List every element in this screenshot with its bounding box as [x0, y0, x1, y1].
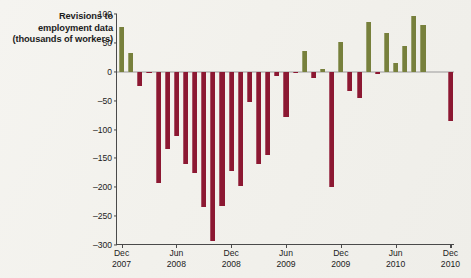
x-tick-label: Jun2008	[167, 248, 186, 270]
x-tick-label: Dec2010	[441, 248, 460, 270]
bar	[274, 72, 279, 77]
x-tick-month: Jun	[386, 248, 405, 259]
bar-highlight	[210, 72, 211, 241]
bar-highlight	[146, 72, 147, 73]
y-tick-label: –250	[93, 211, 112, 221]
x-tick-month: Jun	[167, 248, 186, 259]
y-tick-label: –50	[98, 96, 112, 106]
bar-highlight	[156, 72, 157, 183]
bar	[201, 72, 206, 208]
bar	[128, 53, 133, 71]
bar-highlight	[293, 72, 294, 73]
bar-highlight	[420, 25, 421, 72]
bar-highlight	[393, 63, 394, 72]
bar-highlight	[119, 27, 120, 72]
bar	[320, 69, 325, 71]
x-tick-label: Jun2010	[386, 248, 405, 270]
bar-highlight	[265, 72, 266, 155]
x-tick-month: Dec	[222, 248, 241, 259]
x-tick-year: 2010	[441, 259, 460, 270]
bar	[238, 72, 243, 186]
y-tick-mark	[114, 129, 118, 130]
bar	[247, 72, 252, 102]
x-tick-month: Dec	[331, 248, 350, 259]
bar	[183, 72, 188, 164]
x-tick-mark	[231, 244, 232, 248]
y-tick-label: 100	[98, 9, 112, 19]
bar-highlight	[366, 22, 367, 72]
bar-highlight	[311, 72, 312, 78]
y-tick-label: 0	[107, 67, 112, 77]
bar-highlight	[329, 72, 330, 187]
bar	[375, 72, 380, 74]
bar	[384, 33, 389, 72]
y-tick-mark	[114, 244, 118, 245]
x-tick-year: 2009	[331, 259, 350, 270]
bar-highlight	[411, 16, 412, 72]
bar-highlight	[347, 72, 348, 91]
x-tick-month: Dec	[112, 248, 131, 259]
bar	[210, 72, 215, 241]
bar	[156, 72, 161, 183]
bar-highlight	[219, 72, 220, 206]
x-tick-mark	[176, 244, 177, 248]
bar-highlight	[320, 69, 321, 71]
chart-title-line-3: (thousands of workers)	[6, 34, 113, 46]
bar-highlight	[229, 72, 230, 171]
bar	[311, 72, 316, 78]
y-tick-label: –300	[93, 240, 112, 250]
x-tick-label: Dec2009	[331, 248, 350, 270]
bar-highlight	[183, 72, 184, 164]
bar-highlight	[274, 72, 275, 77]
bar-highlight	[375, 72, 376, 74]
bar	[302, 51, 307, 72]
x-tick-month: Dec	[441, 248, 460, 259]
bar	[448, 72, 453, 121]
bar	[338, 42, 343, 72]
bar-highlight	[137, 72, 138, 86]
bar-highlight	[402, 46, 403, 72]
y-tick-label: 50	[102, 38, 112, 48]
x-tick-mark	[122, 244, 123, 248]
x-tick-label: Dec2008	[222, 248, 241, 270]
bar-highlight	[357, 72, 358, 98]
bar-highlight	[384, 33, 385, 72]
bar-highlight	[302, 51, 303, 72]
chart-figure: Revisions to employment data (thousands …	[0, 0, 471, 278]
y-tick-label: –100	[93, 125, 112, 135]
bar	[165, 72, 170, 149]
x-tick-year: 2009	[276, 259, 295, 270]
bar	[402, 46, 407, 72]
bar-highlight	[192, 72, 193, 173]
x-tick-mark	[396, 244, 397, 248]
y-tick-mark	[114, 100, 118, 101]
plot-frame: 100500–50–100–150–200–250–300 Dec2007Jun…	[116, 14, 454, 245]
bar	[283, 72, 288, 117]
bar	[192, 72, 197, 173]
bar-highlight	[448, 72, 449, 121]
x-tick-mark	[286, 244, 287, 248]
bar-highlight	[238, 72, 239, 186]
x-tick-month: Jun	[276, 248, 295, 259]
y-tick-mark	[114, 158, 118, 159]
bar	[229, 72, 234, 171]
bar	[393, 63, 398, 72]
bar-highlight	[128, 53, 129, 71]
bar	[146, 72, 151, 73]
y-tick-mark	[114, 42, 118, 43]
x-tick-label: Dec2007	[112, 248, 131, 270]
bar-highlight	[174, 72, 175, 136]
bar	[119, 27, 124, 72]
bar	[366, 22, 371, 72]
bar	[357, 72, 362, 98]
plot-area: 100500–50–100–150–200–250–300 Dec2007Jun…	[117, 14, 454, 244]
bar-highlight	[165, 72, 166, 149]
bar	[174, 72, 179, 136]
x-tick-label: Jun2009	[276, 248, 295, 270]
x-tick-year: 2008	[222, 259, 241, 270]
chart-title-line-2: employment data	[6, 23, 113, 35]
y-tick-mark	[114, 187, 118, 188]
y-tick-mark	[114, 216, 118, 217]
bar	[265, 72, 270, 155]
y-tick-mark	[114, 13, 118, 14]
